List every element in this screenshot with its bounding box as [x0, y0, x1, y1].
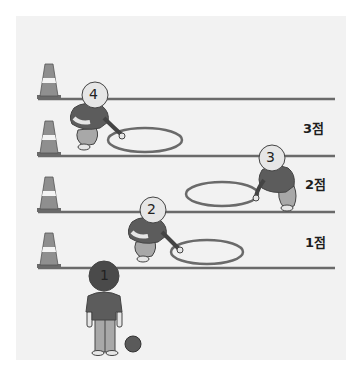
- score-label-1: 1점: [305, 232, 326, 251]
- player-number-4: 4: [89, 86, 98, 102]
- ball-icon: [125, 336, 141, 352]
- score-label-2: 2점: [305, 174, 326, 193]
- player-number-1: 1: [100, 267, 109, 283]
- game-field-illustration: 4 3 2 1 3점 2점 1점: [0, 0, 364, 376]
- player-number-3: 3: [266, 149, 275, 165]
- score-label-3: 3점: [303, 118, 324, 137]
- player-number-2: 2: [147, 201, 156, 217]
- field-panel: [16, 16, 346, 360]
